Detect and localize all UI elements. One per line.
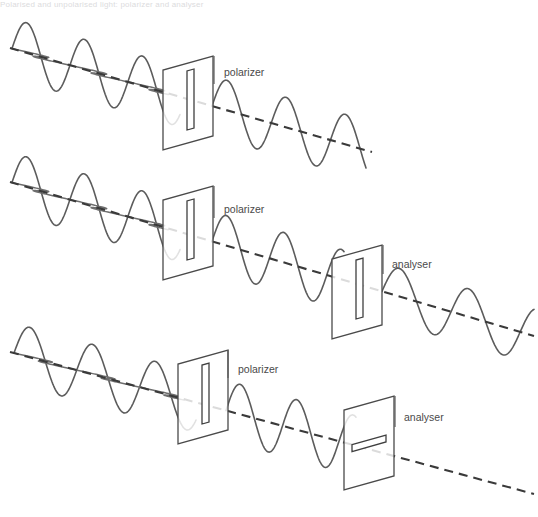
slit-vertical xyxy=(187,199,194,260)
polarization-diagram: polarizerpolarizeranalyserpolarizeranaly… xyxy=(0,0,538,517)
unpolarised-light-through-polarizer: polarizer xyxy=(10,23,372,168)
slit-vertical xyxy=(202,363,209,424)
output-wave-vertical xyxy=(212,80,366,168)
plate-polarizer[interactable]: polarizer xyxy=(163,186,265,280)
plate-analyser[interactable]: analyser xyxy=(344,396,444,490)
polarizer-label: polarizer xyxy=(224,66,265,78)
parallel-polarizer-and-analyser: polarizeranalyser xyxy=(10,157,534,355)
polarizer-label: polarizer xyxy=(238,363,279,375)
output-wave-vertical xyxy=(382,268,534,355)
slit-vertical xyxy=(356,258,363,319)
crossed-polarizer-and-analyser: polarizeranalyser xyxy=(10,327,534,494)
plate-analyser[interactable]: analyser xyxy=(332,245,432,339)
plate-polarizer[interactable]: polarizer xyxy=(178,350,279,444)
analyser-label: analyser xyxy=(404,411,444,423)
slit-vertical xyxy=(187,69,194,130)
output-wave-vertical xyxy=(226,384,356,467)
propagation-axis xyxy=(10,182,534,336)
polarizer-label: polarizer xyxy=(224,203,265,215)
polarization-figure: Polarised and unpolarised light: polariz… xyxy=(0,0,538,517)
analyser-label: analyser xyxy=(392,258,432,270)
output-wave-vertical xyxy=(212,215,344,301)
